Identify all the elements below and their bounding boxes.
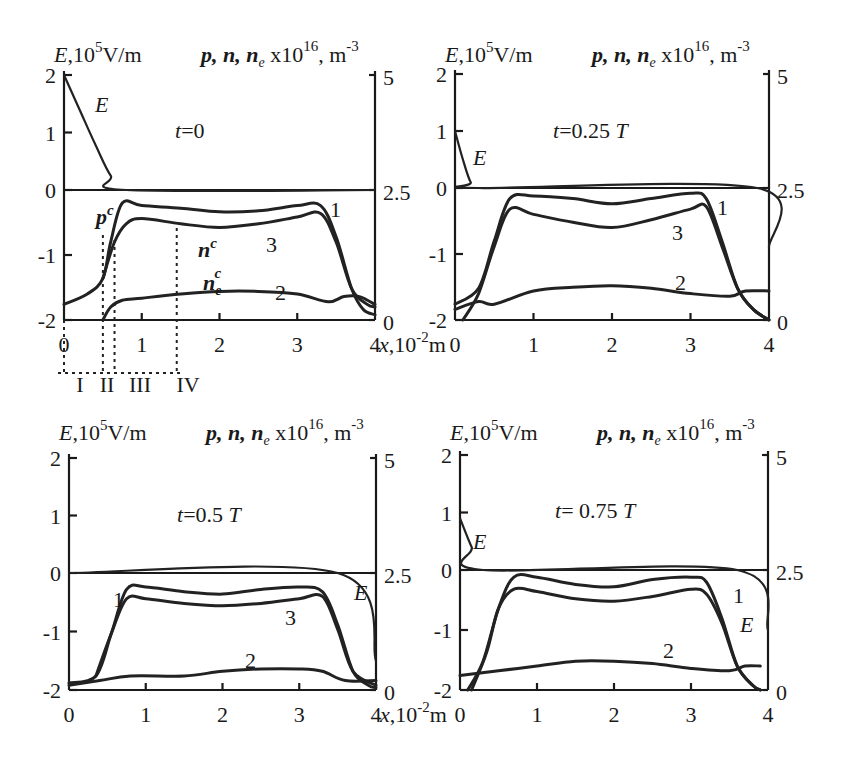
curve-label-1: 1 <box>330 197 341 222</box>
panel-3: -2-101202.5501234E,105V/mp, n, ne x1016,… <box>43 416 447 727</box>
right-axis-title: p, n, ne x1016, m-3 <box>595 416 755 448</box>
curve-2 <box>103 291 375 320</box>
curve-E <box>64 75 375 191</box>
panel-1: -2-101202.5501234E,105V/mp, n, ne x1016,… <box>38 38 446 357</box>
panel-title: t=0.25 T <box>553 118 630 143</box>
x-axis-title: x,10-2m <box>378 329 446 357</box>
curve-E <box>69 567 376 661</box>
x-tick-label: 3 <box>686 702 697 727</box>
left-axis-title: E,105V/m <box>53 39 142 67</box>
left-tick-label: 1 <box>436 119 447 144</box>
curve-label-E: E <box>353 580 368 605</box>
x-tick-label: 2 <box>609 702 620 727</box>
left-tick-label: -2 <box>38 308 56 333</box>
left-tick-label: 1 <box>45 121 56 146</box>
region-label-I: I <box>76 372 83 397</box>
left-axis-title: E,105V/m <box>444 39 533 67</box>
left-tick-label: 0 <box>436 176 447 201</box>
curve-label-2: 2 <box>245 648 256 673</box>
curve-label-1: 1 <box>733 583 744 608</box>
left-tick-label: -2 <box>429 308 447 333</box>
right-tick-label: 2.5 <box>383 180 411 205</box>
curve-E <box>460 518 769 630</box>
curve-2 <box>460 661 760 676</box>
x-tick-label: 3 <box>292 332 303 357</box>
right-tick-label: 5 <box>383 65 394 90</box>
x-tick-label: 0 <box>450 332 461 357</box>
right-axis-title: p, n, ne x1016, m-3 <box>590 38 750 70</box>
x-tick-label: 1 <box>136 332 147 357</box>
curve-label-3: 3 <box>285 605 296 630</box>
region-label-IV: IV <box>176 372 199 397</box>
curve-label-2: 2 <box>663 638 674 663</box>
left-tick-label: 0 <box>45 178 56 203</box>
panel-title: t=0.5 T <box>177 502 243 527</box>
annotation-nc: nc <box>198 235 217 262</box>
curve-label-2: 2 <box>675 270 686 295</box>
right-tick-label: 5 <box>384 448 395 473</box>
x-tick-label: 4 <box>764 332 775 357</box>
x-tick-label: 2 <box>217 702 228 727</box>
left-tick-label: 2 <box>50 446 61 471</box>
left-axis-title: E,105V/m <box>58 417 147 445</box>
panel-title: t= 0.75 T <box>555 498 637 523</box>
curve-label-3: 3 <box>672 220 683 245</box>
x-tick-label: 0 <box>455 702 466 727</box>
right-tick-label: 5 <box>776 445 787 470</box>
x-tick-label: 3 <box>294 702 305 727</box>
left-tick-label: -1 <box>43 620 61 645</box>
x-tick-label: 1 <box>140 702 151 727</box>
curve-2 <box>69 669 376 686</box>
left-tick-label: 0 <box>50 561 61 586</box>
left-tick-label: -1 <box>38 243 56 268</box>
curve-3 <box>103 212 375 307</box>
panel-title: t=0 <box>175 118 205 143</box>
annotation-pc: pc <box>94 202 114 229</box>
curve-label-1: 1 <box>113 587 124 612</box>
curve-label-E: E <box>472 145 487 170</box>
right-tick-label: 0 <box>776 680 787 705</box>
right-tick-label: 0 <box>777 310 788 335</box>
x-tick-label: 1 <box>528 332 539 357</box>
right-tick-label: 2.5 <box>777 178 805 203</box>
x-axis-title: x,10-2m <box>379 699 447 727</box>
curve-label-1: 1 <box>717 195 728 220</box>
region-label-III: III <box>129 372 151 397</box>
curve-label-2: 2 <box>275 280 286 305</box>
right-axis-title: p, n, ne x1016, m-3 <box>204 416 364 448</box>
left-tick-label: 1 <box>50 504 61 529</box>
curve-E <box>455 131 782 247</box>
right-axis-title: p, n, ne x1016, m-3 <box>199 38 359 70</box>
curve-3 <box>463 204 769 320</box>
x-tick-label: 3 <box>685 332 696 357</box>
panel-2: -2-101202.5501234E,105V/mp, n, ne x1016,… <box>429 38 805 357</box>
annotation-nec: nec <box>203 265 221 298</box>
left-tick-label: -1 <box>429 242 447 267</box>
x-tick-label: 4 <box>763 702 774 727</box>
curve-label-E: E <box>739 612 754 637</box>
right-tick-label: 5 <box>777 64 788 89</box>
right-tick-label: 2.5 <box>384 563 412 588</box>
x-tick-label: 2 <box>214 332 225 357</box>
x-tick-label: 0 <box>64 702 75 727</box>
left-tick-label: -2 <box>434 678 452 703</box>
curve-label-E: E <box>94 92 109 117</box>
x-tick-label: 2 <box>607 332 618 357</box>
left-tick-label: 2 <box>441 443 452 468</box>
left-axis-title: E,105V/m <box>449 417 538 445</box>
left-tick-label: 0 <box>441 558 452 583</box>
figure-canvas: -2-101202.5501234E,105V/mp, n, ne x1016,… <box>0 0 843 771</box>
region-label-II: II <box>100 372 115 397</box>
left-tick-label: -2 <box>43 678 61 703</box>
panel-4: -2-101202.5501234E,105V/mp, n, ne x1016,… <box>434 416 804 727</box>
right-tick-label: 2.5 <box>776 560 804 585</box>
x-tick-label: 1 <box>532 702 543 727</box>
curve-label-E: E <box>472 529 487 554</box>
curve-2 <box>455 286 769 310</box>
left-tick-label: 1 <box>441 501 452 526</box>
curve-label-3: 3 <box>266 232 277 257</box>
left-tick-label: -1 <box>434 618 452 643</box>
